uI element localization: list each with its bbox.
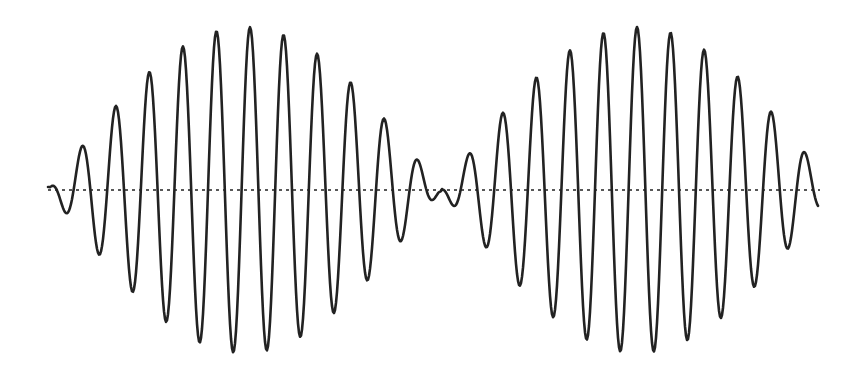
beat-waveform-figure: Beat waveform: a high-frequency carrier … (0, 0, 858, 366)
waveform-plot (0, 0, 858, 366)
